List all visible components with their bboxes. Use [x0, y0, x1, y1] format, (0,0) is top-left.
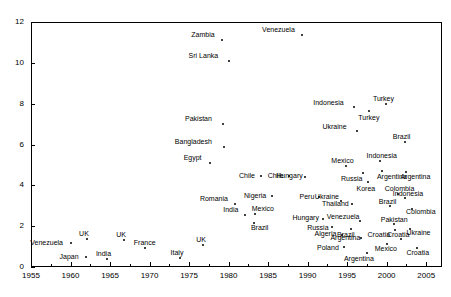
- x-tick-mark: [229, 262, 230, 267]
- data-point-label: Venezuela: [30, 239, 63, 246]
- data-point-label: Bangladesh: [175, 138, 212, 145]
- x-tick-mark: [31, 262, 32, 267]
- data-point: [144, 247, 146, 249]
- x-tick-mark: [426, 262, 427, 267]
- data-point-label: Turkey: [373, 95, 394, 102]
- data-point-label: India: [223, 206, 238, 213]
- data-point-label: Egypt: [184, 154, 202, 161]
- x-tick-mark: [150, 262, 151, 267]
- data-point: [385, 103, 387, 105]
- data-point-label: Peru: [299, 193, 314, 200]
- y-tick-label: 10: [2, 59, 24, 67]
- x-tick-mark: [71, 262, 72, 267]
- data-point-label: Mexico: [331, 157, 353, 164]
- data-point-label: India: [96, 250, 111, 257]
- y-tick-label: 6: [2, 141, 24, 149]
- y-tick-mark: [31, 226, 35, 227]
- y-tick-mark: [31, 104, 35, 105]
- x-tick-mark: [189, 262, 190, 267]
- y-tick-mark: [31, 145, 35, 146]
- data-point-label: Indonesia: [313, 99, 343, 106]
- data-point: [209, 162, 211, 164]
- y-tick-label: 4: [2, 181, 24, 189]
- x-tick-minor: [90, 264, 91, 267]
- data-point: [393, 223, 395, 225]
- data-point: [123, 239, 125, 241]
- data-point: [353, 106, 355, 108]
- x-tick-minor: [327, 264, 328, 267]
- data-point-label: Turkey: [358, 114, 379, 121]
- data-point: [85, 256, 87, 258]
- data-point-label: UK: [196, 236, 206, 243]
- data-point: [368, 110, 370, 112]
- y-tick-label: 8: [2, 100, 24, 108]
- data-point: [301, 34, 303, 36]
- data-point: [366, 252, 368, 254]
- data-point-label: Colombia: [406, 208, 436, 215]
- y-tick-mark: [31, 185, 35, 186]
- x-tick-label: 1955: [16, 272, 46, 280]
- data-point-label: Japan: [60, 253, 79, 260]
- data-point: [404, 141, 406, 143]
- x-tick-mark: [268, 262, 269, 267]
- x-tick-label: 1965: [95, 272, 125, 280]
- x-tick-mark: [110, 262, 111, 267]
- data-point-label: Argentina: [330, 234, 360, 241]
- x-tick-minor: [288, 264, 289, 267]
- data-point: [228, 60, 230, 62]
- data-point: [343, 246, 345, 248]
- x-tick-label: 1960: [56, 272, 86, 280]
- data-point: [244, 214, 246, 216]
- x-tick-minor: [209, 264, 210, 267]
- data-point-label: Brazil: [393, 133, 411, 140]
- data-point: [322, 218, 324, 220]
- x-tick-label: 1990: [293, 272, 323, 280]
- data-point: [304, 176, 306, 178]
- data-point-label: Italy: [171, 249, 184, 256]
- data-point-label: Russia: [341, 175, 362, 182]
- data-point-label: Venezuela: [262, 26, 295, 33]
- data-point-label: Mexico: [252, 205, 274, 212]
- data-point-label: Nigeria: [244, 192, 266, 199]
- y-tick-mark: [31, 63, 35, 64]
- y-tick-label: 2: [2, 222, 24, 230]
- data-point: [345, 165, 347, 167]
- data-point-label: Thailand: [322, 200, 349, 207]
- data-point: [360, 237, 362, 239]
- data-point-label: Poland: [317, 244, 339, 251]
- data-point: [234, 203, 236, 205]
- data-point-label: Zambia: [191, 31, 214, 38]
- plot-area: [31, 22, 442, 267]
- data-point-label: Korea: [356, 185, 375, 192]
- data-point: [389, 205, 391, 207]
- data-point-label: Romania: [200, 195, 228, 202]
- x-tick-minor: [367, 264, 368, 267]
- data-point: [359, 220, 361, 222]
- data-point-label: Croatia: [406, 249, 429, 256]
- data-point: [381, 170, 383, 172]
- data-point-label: Hungary: [276, 172, 302, 179]
- scatter-chart: 024681012 195519601965197019751980198519…: [0, 0, 451, 297]
- data-point-label: Indonesia: [367, 152, 397, 159]
- y-tick-label: 12: [2, 18, 24, 26]
- data-point-label: Hungary: [292, 214, 318, 221]
- data-point: [379, 160, 381, 162]
- data-point-label: Argentina: [344, 255, 374, 262]
- data-point: [367, 181, 369, 183]
- data-point: [404, 197, 406, 199]
- y-tick-mark: [31, 22, 35, 23]
- data-point-label: Argentina: [400, 173, 430, 180]
- y-tick-mark: [31, 267, 35, 268]
- data-point-label: France: [134, 239, 156, 246]
- data-point-label: Chile: [239, 172, 255, 179]
- data-point-label: Sri Lanka: [189, 52, 219, 59]
- x-tick-minor: [169, 264, 170, 267]
- data-point-label: Brazil: [251, 224, 269, 231]
- data-point: [106, 258, 108, 260]
- data-point: [356, 130, 358, 132]
- x-tick-label: 2005: [411, 272, 441, 280]
- data-point: [271, 195, 273, 197]
- x-tick-label: 1985: [253, 272, 283, 280]
- x-tick-minor: [248, 264, 249, 267]
- data-point-label: Mexico: [375, 245, 397, 252]
